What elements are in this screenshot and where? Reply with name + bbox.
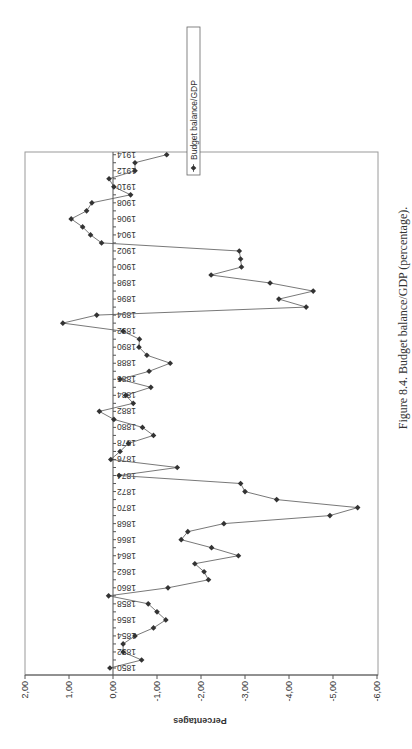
year-tick-label: 1888 [117,358,136,368]
value-tick-label: -5,00 [328,681,338,702]
year-tick-label: 1882 [117,406,136,416]
year-tick-label: 1868 [117,519,136,529]
data-point-marker [140,425,146,431]
year-tick-label: 1872 [117,487,136,497]
data-point-marker [274,497,280,503]
value-tick-label: -2,00 [196,681,206,702]
data-point-marker [242,489,248,495]
data-point-marker [60,320,66,326]
data-point-marker [221,521,227,527]
data-point-marker [267,280,273,286]
year-tick-label: 1890 [117,342,136,352]
year-tick-label: 1894 [117,310,136,320]
data-point-marker [238,256,244,262]
data-point-marker [128,192,134,198]
data-point-marker [84,208,90,214]
year-tick-label: 1858 [117,599,136,609]
year-tick-label: 1892 [117,326,136,336]
data-point-marker [94,312,100,318]
data-point-marker [209,545,215,551]
data-point-marker [106,176,112,182]
data-point-marker [174,465,180,471]
data-point-marker [327,513,333,519]
data-point-marker [107,665,113,671]
data-point-marker [111,417,117,423]
data-point-marker [146,368,152,374]
data-point-marker [238,481,244,487]
data-point-marker [132,160,138,166]
year-tick-label: 1908 [117,198,136,208]
data-point-marker [236,248,242,254]
year-tick-label: 1876 [117,454,136,464]
data-point-marker [139,657,145,663]
year-tick-label: 1898 [117,278,136,288]
legend-label: Budget balance/GDP [189,80,199,160]
year-tick-label: 1880 [117,422,136,432]
data-point-marker [148,384,154,390]
data-point-marker [89,200,95,206]
value-axis-ticks: 2,001,000,00-1,00-2,00-3,00-4,00-5,00-6,… [20,675,382,702]
year-tick-label: 1866 [117,535,136,545]
year-tick-label: 1862 [117,567,136,577]
series-markers [60,152,360,671]
data-point-marker [68,216,74,222]
year-tick-label: 1914 [117,150,136,160]
legend: Budget balance/GDP [187,27,200,175]
year-tick-label: 1860 [117,583,136,593]
data-point-marker [151,625,157,631]
data-point-marker [236,553,242,559]
series-line-budget-balance [63,155,358,668]
value-tick-label: 1,00 [64,681,74,699]
budget-balance-chart: 2,001,000,00-1,00-2,00-3,00-4,00-5,00-6,… [0,0,412,749]
data-point-marker [208,272,214,278]
year-tick-label: 1856 [117,615,136,625]
value-tick-label: -3,00 [240,681,250,702]
year-tick-label: 1850 [117,663,136,673]
year-tick-label: 1896 [117,294,136,304]
plot-area-frame [25,152,378,675]
data-point-marker [206,577,212,583]
year-tick-label: 1904 [117,230,136,240]
data-point-marker [106,593,112,599]
value-tick-label: -6,00 [372,681,382,702]
year-tick-label: 1852 [117,647,136,657]
value-tick-label: 2,00 [20,681,30,699]
value-tick-label: -4,00 [284,681,294,702]
value-tick-label: -1,00 [152,681,162,702]
data-point-marker [165,585,171,591]
value-tick-label: 0,00 [108,681,118,699]
value-axis-label: Percentages [173,716,227,726]
year-tick-label: 1902 [117,246,136,256]
data-point-marker [120,641,126,647]
data-point-marker [167,360,173,366]
data-point-marker [97,409,103,415]
year-tick-label: 1906 [117,214,136,224]
data-point-marker [276,296,282,302]
figure-caption: Figure 8.4. Budget balance/GDP (percenta… [396,207,410,429]
data-point-marker [239,264,245,270]
data-point-marker [137,336,143,342]
data-point-marker [164,152,170,158]
data-point-marker [310,288,316,294]
year-tick-label: 1864 [117,551,136,561]
data-point-marker [151,433,157,439]
data-point-marker [111,184,117,190]
year-tick-label: 1910 [117,182,136,192]
year-tick-label: 1900 [117,262,136,272]
data-point-marker [355,505,361,511]
year-tick-label: 1870 [117,503,136,513]
data-point-marker [303,304,309,310]
